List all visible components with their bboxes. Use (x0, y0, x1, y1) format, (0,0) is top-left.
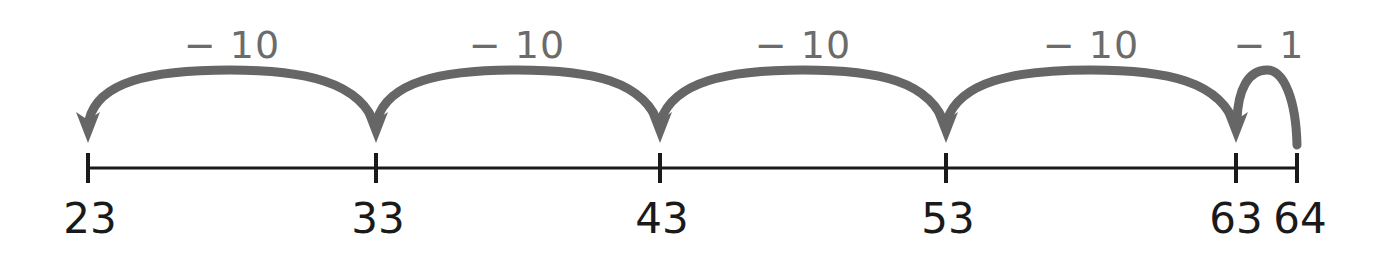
jump-arcs (89, 70, 1297, 145)
tick-label-23: 23 (63, 198, 116, 240)
jump-label-63-to-53: − 10 (1043, 26, 1139, 64)
jump-label-33-to-23: − 10 (184, 26, 280, 64)
jump-arc-63-to-53 (947, 70, 1236, 128)
jump-label-43-to-33: − 10 (469, 26, 565, 64)
jump-arc-53-to-43 (661, 70, 946, 128)
jump-arc-64-to-63 (1237, 70, 1297, 145)
jump-arc-43-to-33 (377, 70, 660, 128)
jump-arc-33-to-23 (89, 70, 376, 128)
jump-label-53-to-43: − 10 (755, 26, 851, 64)
tick-label-63: 63 (1209, 198, 1262, 240)
tick-label-43: 43 (635, 198, 688, 240)
tick-label-64: 64 (1273, 198, 1326, 240)
tick-label-53: 53 (921, 198, 974, 240)
tick-label-33: 33 (351, 198, 404, 240)
jump-label-64-to-63: − 1 (1233, 26, 1304, 64)
